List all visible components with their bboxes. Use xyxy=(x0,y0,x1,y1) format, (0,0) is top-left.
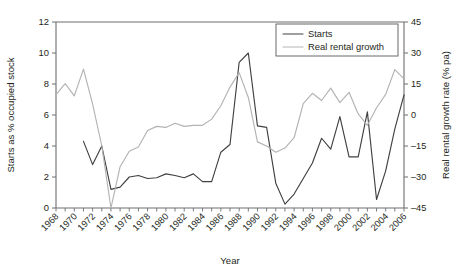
x-axis-tick-label: 1986 xyxy=(204,211,226,233)
legend-label-0: Starts xyxy=(308,28,333,39)
x-axis-tick-label: 1990 xyxy=(241,211,263,233)
x-axis-tick-label: 1970 xyxy=(57,211,79,233)
y-axis-left-title: Starts as % occupied stock xyxy=(5,57,16,172)
y-axis-left-tick-label: 2 xyxy=(44,171,49,182)
y-axis-left-tick-label: 10 xyxy=(39,47,49,58)
y-axis-right-tick-label: 15 xyxy=(411,79,421,89)
y-axis-right-tick-label: –45 xyxy=(411,203,426,213)
y-axis-left-tick-label: 6 xyxy=(44,109,49,120)
x-axis-tick-label: 1982 xyxy=(167,211,189,233)
y-axis-right-tick-label: –15 xyxy=(411,141,426,151)
x-axis-title: Year xyxy=(220,255,240,266)
x-axis-tick-label: 1978 xyxy=(131,211,153,233)
y-axis-right-tick-label: 0 xyxy=(411,110,416,120)
y-axis-left-tick-label: 4 xyxy=(44,140,49,151)
x-axis-tick-label: 1968 xyxy=(39,211,61,233)
x-axis-tick-label: 1976 xyxy=(112,211,134,233)
x-axis-tick-label: 2002 xyxy=(350,211,372,233)
y-axis-left-tick-label: 12 xyxy=(39,16,49,27)
x-axis-tick-label: 1974 xyxy=(94,211,116,233)
x-axis-tick-label: 1998 xyxy=(314,211,336,233)
x-axis-tick-label: 1988 xyxy=(222,211,244,233)
legend-label-1: Real rental growth xyxy=(308,41,384,52)
x-axis-tick-label: 1994 xyxy=(277,211,299,233)
y-axis-left-tick-label: 8 xyxy=(44,78,49,89)
y-axis-right-title: Real rental growth rate (% pa) xyxy=(440,51,451,179)
x-axis-tick-label: 1992 xyxy=(259,211,281,233)
x-axis-tick-label: 2006 xyxy=(387,211,409,233)
x-axis-tick-label: 2004 xyxy=(369,211,391,233)
series-line-starts xyxy=(83,53,404,204)
x-axis-tick-label: 2000 xyxy=(332,211,354,233)
y-axis-left-tick-label: 0 xyxy=(44,202,49,213)
x-axis-tick-label: 1972 xyxy=(76,211,98,233)
y-axis-right-tick-label: 30 xyxy=(411,48,421,58)
y-axis-right-tick-label: –30 xyxy=(411,172,426,182)
x-axis-tick-label: 1996 xyxy=(296,211,318,233)
x-axis-tick-label: 1980 xyxy=(149,211,171,233)
line-chart: 024681012–45–30–150153045196819701972197… xyxy=(0,0,458,275)
x-axis-tick-label: 1984 xyxy=(186,211,208,233)
y-axis-right-tick-label: 45 xyxy=(411,17,421,27)
series-line-real-rental-growth xyxy=(56,69,404,208)
chart-container: 024681012–45–30–150153045196819701972197… xyxy=(0,0,458,275)
